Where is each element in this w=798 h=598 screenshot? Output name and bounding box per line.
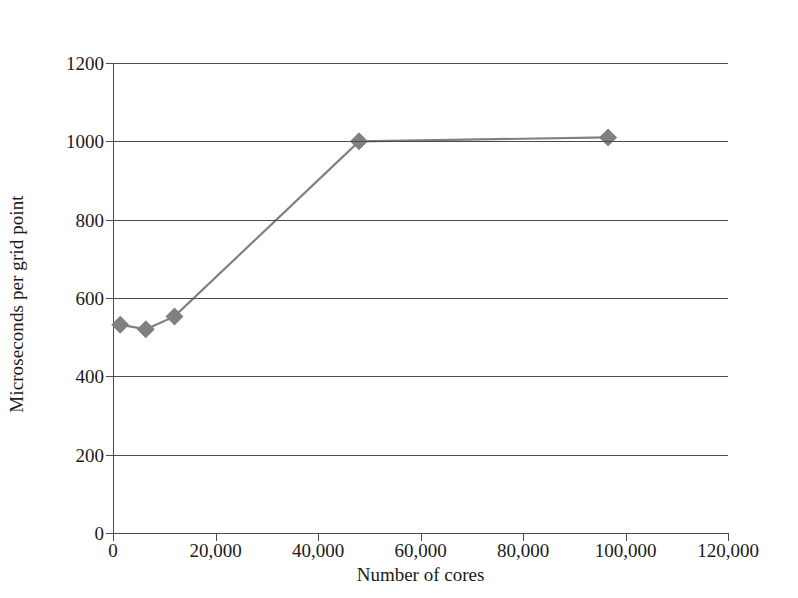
clipped-header-text [360, 0, 780, 3]
y-tick-label: 200 [76, 446, 105, 465]
data-point-marker [137, 320, 155, 338]
data-point-marker [111, 316, 129, 334]
y-tick-mark [106, 376, 113, 377]
y-tick-label: 0 [95, 524, 105, 543]
gridline-horizontal [113, 298, 728, 299]
data-point-marker [599, 128, 617, 146]
y-tick-mark [106, 298, 113, 299]
series-line [120, 137, 608, 329]
y-tick-mark [106, 141, 113, 142]
gridline-horizontal [113, 220, 728, 221]
x-tick-label: 40,000 [292, 541, 344, 560]
x-tick-label: 20,000 [189, 541, 241, 560]
y-tick-label: 600 [76, 289, 105, 308]
x-tick-label: 80,000 [497, 541, 549, 560]
y-tick-mark [106, 455, 113, 456]
gridline-horizontal [113, 376, 728, 377]
x-tick-label: 60,000 [394, 541, 446, 560]
chart-figure: Microseconds per grid point 020040060080… [0, 0, 798, 598]
y-tick-mark [106, 533, 113, 534]
x-tick-label: 0 [108, 541, 118, 560]
y-tick-label-group: 020040060080010001200 [42, 63, 104, 533]
x-tick-label-group: 020,00040,00060,00080,000100,000120,000 [113, 541, 728, 565]
y-tick-label: 800 [76, 211, 105, 230]
gridline-horizontal [113, 455, 728, 456]
series-markers [111, 128, 617, 338]
y-tick-label: 400 [76, 367, 105, 386]
gridline-horizontal [113, 63, 728, 64]
y-tick-label: 1000 [66, 132, 104, 151]
y-tick-mark [106, 63, 113, 64]
gridline-horizontal [113, 141, 728, 142]
y-axis-title-label: Microseconds per grid point [6, 195, 28, 412]
plot-area [113, 63, 728, 533]
y-tick-mark [106, 220, 113, 221]
x-axis-title: Number of cores [113, 564, 728, 586]
y-tick-label: 1200 [66, 54, 104, 73]
x-tick-label: 100,000 [595, 541, 657, 560]
y-axis-title: Microseconds per grid point [0, 0, 34, 598]
x-tick-label: 120,000 [697, 541, 759, 560]
